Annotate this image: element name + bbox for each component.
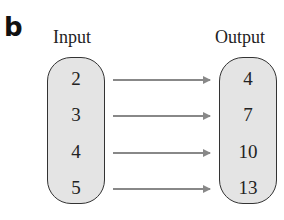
mapping-arrows: [0, 0, 284, 220]
